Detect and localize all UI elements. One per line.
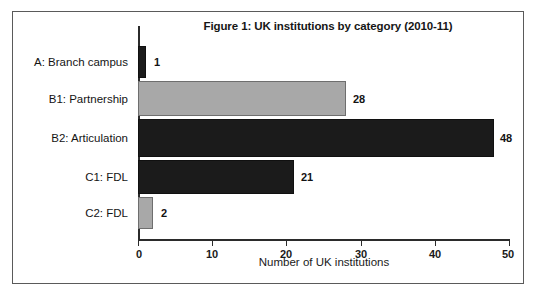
bar-row-b2: B2: Articulation 48 (138, 119, 510, 157)
bar-value-a: 1 (154, 56, 160, 68)
plot-area: 0 10 20 30 40 50 A: Branch campus 1 B1: … (138, 26, 510, 239)
bar-value-b1: 28 (353, 93, 365, 105)
category-label-c1: C1: FDL (85, 171, 128, 183)
category-label-b2: B2: Articulation (51, 132, 128, 144)
bar-b1[interactable] (138, 81, 346, 116)
bar-value-b2: 48 (500, 132, 512, 144)
bar-c2[interactable] (138, 197, 153, 229)
bar-b2[interactable] (138, 119, 494, 157)
x-tick-mark (435, 241, 436, 246)
category-label-a: A: Branch campus (34, 56, 128, 68)
category-label-c2: C2: FDL (85, 207, 128, 219)
x-axis-title: Number of UK institutions (138, 256, 510, 268)
bar-a[interactable] (138, 46, 146, 78)
x-tick-mark (509, 241, 510, 246)
x-tick-mark (212, 241, 213, 246)
bar-row-a: A: Branch campus 1 (138, 46, 510, 78)
figure-frame: Figure 1: UK institutions by category (2… (12, 11, 524, 284)
bar-row-c1: C1: FDL 21 (138, 160, 510, 194)
bar-row-b1: B1: Partnership 28 (138, 81, 510, 116)
x-tick-mark (138, 241, 139, 246)
bar-c1[interactable] (138, 160, 294, 194)
category-label-b1: B1: Partnership (49, 93, 128, 105)
x-tick-mark (286, 241, 287, 246)
bar-row-c2: C2: FDL 2 (138, 197, 510, 229)
bar-value-c1: 21 (301, 171, 313, 183)
bar-value-c2: 2 (161, 207, 167, 219)
x-axis-line (138, 239, 510, 241)
x-tick-mark (361, 241, 362, 246)
